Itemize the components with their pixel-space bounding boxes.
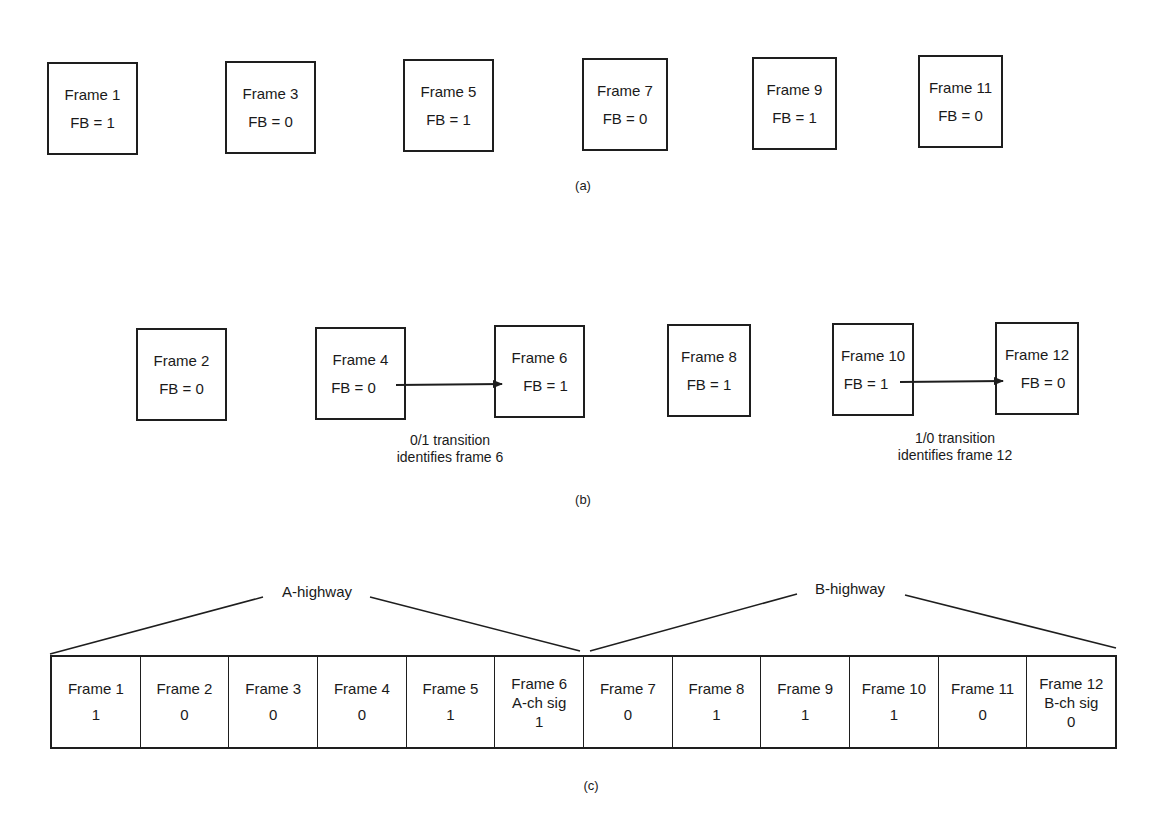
- transition-arrow-10-to-12: [900, 381, 1003, 382]
- a-highway-right-line: [370, 597, 580, 651]
- b-highway-right-line: [905, 595, 1116, 648]
- connector-lines: [0, 0, 1160, 829]
- transition-arrow-4-to-6: [396, 384, 502, 385]
- a-highway-left-line: [50, 597, 263, 654]
- b-highway-left-line: [590, 594, 797, 651]
